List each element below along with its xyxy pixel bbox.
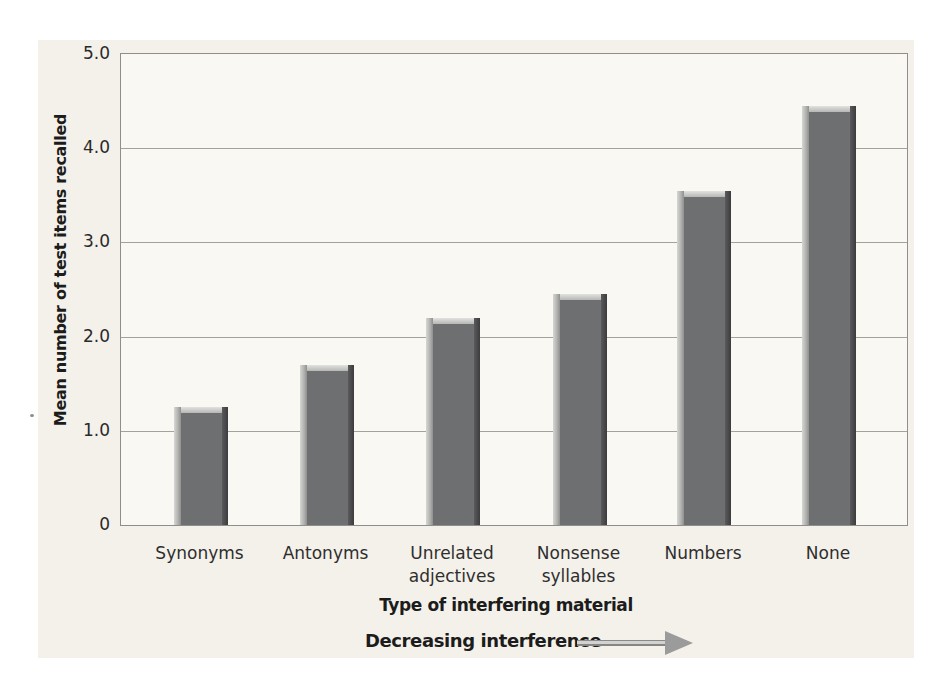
bar-top-bevel	[560, 294, 601, 300]
bar-numbers	[677, 191, 731, 525]
right-arrow-icon	[577, 640, 671, 646]
gridline-1.0	[121, 431, 907, 432]
bar-top-bevel	[433, 318, 474, 324]
gridline-2.0	[121, 337, 907, 338]
x-axis-title: Type of interfering material	[379, 595, 633, 615]
bar-top-bevel	[809, 106, 850, 112]
bar-top-bevel	[684, 191, 725, 197]
bar-top-bevel	[307, 365, 348, 371]
x-label-none: None	[806, 542, 850, 565]
bar-hl-bevel	[426, 318, 433, 525]
bar-hl-bevel	[174, 407, 181, 525]
bar-sh-bevel	[725, 191, 731, 525]
bar-synonyms	[174, 407, 228, 525]
y-tick-1.0: 1.0	[50, 420, 110, 440]
bar-hl-bevel	[300, 365, 307, 525]
y-tick-0: 0	[50, 514, 110, 534]
bar-sh-bevel	[474, 318, 480, 525]
y-tick-4.0: 4.0	[50, 137, 110, 157]
x-label-nonsense-syllables: Nonsensesyllables	[537, 542, 620, 588]
bar-hl-bevel	[802, 106, 809, 525]
y-tick-2.0: 2.0	[50, 326, 110, 346]
y-tick-5.0: 5.0	[50, 43, 110, 63]
scan-artifact-dot	[30, 414, 34, 417]
bar-antonyms	[300, 365, 354, 525]
bar-sh-bevel	[222, 407, 228, 525]
x-label-synonyms: Synonyms	[155, 542, 243, 565]
bar-sh-bevel	[348, 365, 354, 525]
y-tick-3.0: 3.0	[50, 231, 110, 251]
bar-unrelated-adjectives	[426, 318, 480, 525]
bar-sh-bevel	[850, 106, 856, 525]
plot-area	[120, 53, 908, 526]
bar-hl-bevel	[553, 294, 560, 525]
bar-top-bevel	[181, 407, 222, 413]
right-arrow-head-icon	[665, 631, 693, 655]
chart-panel: Mean number of test items recalled 5.04.…	[38, 40, 914, 658]
bar-hl-bevel	[677, 191, 684, 525]
x-label-unrelated-adjectives: Unrelatedadjectives	[409, 542, 496, 588]
decreasing-interference-label: Decreasing interference	[365, 630, 601, 651]
x-label-numbers: Numbers	[664, 542, 741, 565]
bar-nonsense-syllables	[553, 294, 607, 525]
y-axis-title: Mean number of test items recalled	[51, 114, 70, 426]
x-label-antonyms: Antonyms	[283, 542, 369, 565]
gridline-4.0	[121, 148, 907, 149]
gridline-3.0	[121, 242, 907, 243]
bar-none	[802, 106, 856, 525]
bar-sh-bevel	[601, 294, 607, 525]
